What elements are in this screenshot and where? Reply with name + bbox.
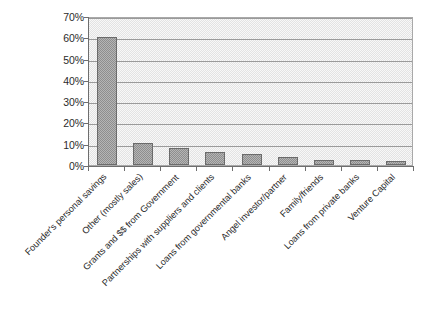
- y-tick-mark: [84, 38, 88, 39]
- x-tick-mark: [232, 167, 233, 171]
- y-tick-mark: [84, 102, 88, 103]
- y-tick-mark: [84, 17, 88, 18]
- bar-chart: 0%10%20%30%40%50%60%70% Founder's person…: [0, 0, 421, 316]
- x-tick-mark: [88, 167, 89, 171]
- x-tick-mark: [269, 167, 270, 171]
- y-tick-mark: [84, 145, 88, 146]
- y-tick-mark: [84, 60, 88, 61]
- x-axis-category-labels: Founder's personal savingsOther (mostly …: [0, 0, 421, 316]
- y-tick-mark: [84, 81, 88, 82]
- x-tick-mark: [196, 167, 197, 171]
- y-tick-mark: [84, 123, 88, 124]
- x-tick-mark: [160, 167, 161, 171]
- x-tick-mark: [124, 167, 125, 171]
- x-tick-mark: [377, 167, 378, 171]
- x-category-label: Angel investor/partner: [219, 172, 289, 242]
- x-tick-mark: [305, 167, 306, 171]
- x-tick-mark: [413, 167, 414, 171]
- x-tick-mark: [341, 167, 342, 171]
